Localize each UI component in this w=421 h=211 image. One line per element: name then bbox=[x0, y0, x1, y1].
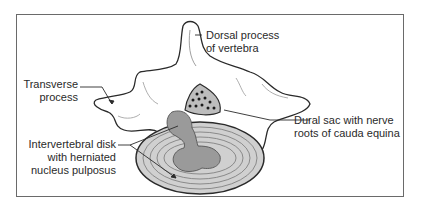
label-dural-sac: Dural sac with nerve roots of cauda equi… bbox=[294, 114, 400, 140]
label-transverse-process: Transverse process bbox=[22, 78, 78, 104]
label-intervertebral-disk: Intervertebral disk with herniated nucle… bbox=[22, 138, 116, 177]
label-dorsal-process: Dorsal process of vertebra bbox=[206, 29, 279, 55]
